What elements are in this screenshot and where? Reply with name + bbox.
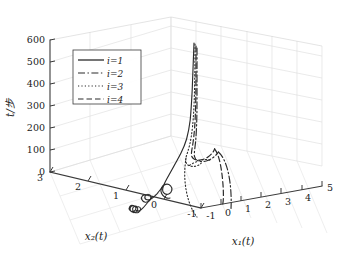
x1-tick-1: 1: [245, 203, 251, 214]
z-tick-500: 500: [27, 56, 45, 67]
z-tick-200: 200: [27, 122, 45, 133]
z-tick-400: 400: [27, 78, 45, 89]
curve-i1: [161, 43, 194, 198]
z-axis-tick-labels: 0 100 200 300 400 500 600: [27, 34, 45, 177]
x2-axis-line: [50, 172, 201, 208]
legend-label-i3: i=3: [107, 82, 123, 92]
x2-tick-0: 0: [151, 199, 157, 210]
z-axis-ticks: [50, 39, 55, 172]
x1-tick-m1: -1: [206, 210, 215, 221]
z-tick-300: 300: [27, 100, 45, 111]
x1-tick-3: 3: [285, 196, 291, 207]
x1-tick-4: 4: [305, 192, 311, 203]
plot-canvas: 0 100 200 300 400 500 600 3 2 1 0 -1 -1 …: [0, 0, 340, 261]
x2-tick-3: 3: [37, 172, 43, 183]
figure-3d-trajectory-plot: 0 100 200 300 400 500 600 3 2 1 0 -1 -1 …: [0, 0, 340, 261]
x1-tick-0: 0: [225, 207, 231, 218]
x2-tick-1: 1: [113, 190, 119, 201]
legend-label-i1: i=1: [107, 56, 123, 66]
x1-tick-2: 2: [265, 199, 271, 210]
legend[interactable]: i=1 i=2 i=3 i=4: [73, 50, 141, 105]
x2-tick-2: 2: [75, 181, 81, 192]
x2-axis-ticks: [50, 167, 204, 208]
legend-label-i4: i=4: [107, 95, 123, 105]
trajectory-curves: [129, 43, 231, 217]
z-tick-100: 100: [27, 144, 45, 155]
legend-label-i2: i=2: [107, 69, 123, 79]
z-tick-600: 600: [27, 34, 45, 45]
x2-axis-title: x₂(t): [85, 230, 108, 242]
x1-axis-title: x₁(t): [232, 235, 255, 247]
x1-tick-5: 5: [327, 182, 333, 193]
z-axis-title: t/步: [4, 97, 16, 117]
